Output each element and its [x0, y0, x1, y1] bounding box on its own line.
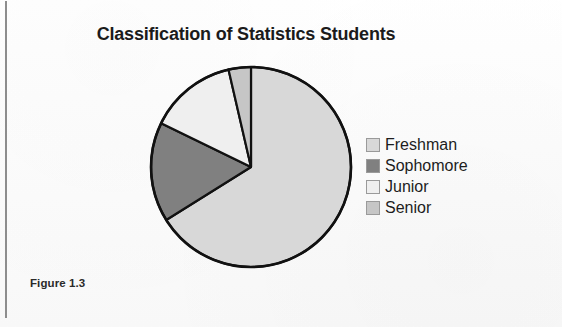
legend-swatch-icon — [366, 138, 380, 152]
legend-label: Junior — [385, 179, 429, 195]
legend-swatch-icon — [366, 201, 380, 215]
chart-legend: FreshmanSophomoreJuniorSenior — [366, 134, 516, 218]
legend-swatch-icon — [366, 159, 380, 173]
legend-item-sophomore: Sophomore — [366, 155, 516, 176]
figure-page: Classification of Statistics Students Fr… — [0, 0, 562, 327]
pie-chart — [148, 64, 354, 270]
legend-label: Freshman — [385, 137, 457, 153]
figure-caption: Figure 1.3 — [30, 277, 85, 289]
chart-title: Classification of Statistics Students — [0, 24, 562, 45]
legend-item-freshman: Freshman — [366, 134, 516, 155]
legend-label: Senior — [385, 200, 431, 216]
legend-item-senior: Senior — [366, 197, 516, 218]
page-margin-rule — [5, 1, 7, 318]
legend-item-junior: Junior — [366, 176, 516, 197]
pie-chart-svg — [148, 64, 354, 270]
legend-label: Sophomore — [385, 158, 468, 174]
legend-swatch-icon — [366, 180, 380, 194]
